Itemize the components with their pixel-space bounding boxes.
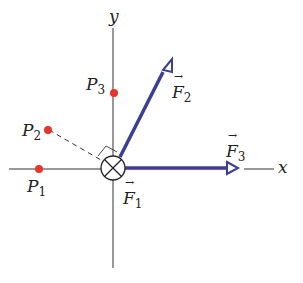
vector-arrow-f1: → (125, 176, 134, 189)
force-diagram: y x P3 P2 P1 F2 → F3 → F1 → (0, 0, 303, 283)
force-f2-arrowhead (163, 59, 172, 72)
y-axis-label: y (108, 6, 119, 26)
vector-arrow-f2: → (174, 70, 183, 83)
label-p2: P2 (21, 120, 41, 143)
point-p1 (35, 165, 43, 173)
diagram-canvas: y x P3 P2 P1 F2 → F3 → F1 → (0, 0, 303, 283)
x-axis-label: x (278, 157, 288, 177)
force-f2-shaft (120, 72, 163, 157)
label-p3: P3 (85, 74, 105, 97)
perpendicular-dashed-line (49, 130, 101, 160)
point-p2 (44, 126, 52, 134)
label-p1: P1 (26, 176, 46, 199)
label-f2: F2 (171, 82, 191, 105)
right-angle-marker (98, 146, 117, 156)
label-f3: F3 (225, 141, 245, 164)
vector-arrow-f3: → (228, 129, 237, 142)
force-f3-arrowhead (227, 162, 238, 174)
point-p3 (110, 89, 118, 97)
label-f1: F1 (122, 188, 142, 211)
